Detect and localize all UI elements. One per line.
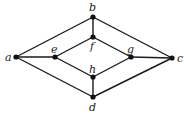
edge-a-d — [16, 57, 93, 97]
node-label-h: h — [89, 63, 96, 76]
node-label-c: c — [177, 52, 183, 65]
node-c — [169, 55, 174, 60]
edge-e-f — [55, 37, 93, 57]
node-label-a: a — [5, 51, 12, 64]
node-a — [13, 54, 18, 59]
edge-f-g — [93, 37, 131, 57]
edge-h-g — [93, 57, 131, 77]
node-label-d: d — [89, 101, 96, 114]
node-label-f: f — [89, 40, 96, 53]
node-label-b: b — [89, 1, 96, 14]
edge-e-h — [55, 57, 93, 77]
edge-g-c — [131, 57, 172, 58]
graph-diagram: abcdefgh — [0, 0, 184, 118]
edges — [16, 17, 172, 97]
node-d — [90, 94, 95, 99]
node-f — [90, 34, 95, 39]
node-label-g: g — [127, 43, 134, 56]
node-b — [90, 14, 95, 19]
edge-d-c — [93, 58, 172, 97]
node-label-e: e — [51, 43, 58, 56]
